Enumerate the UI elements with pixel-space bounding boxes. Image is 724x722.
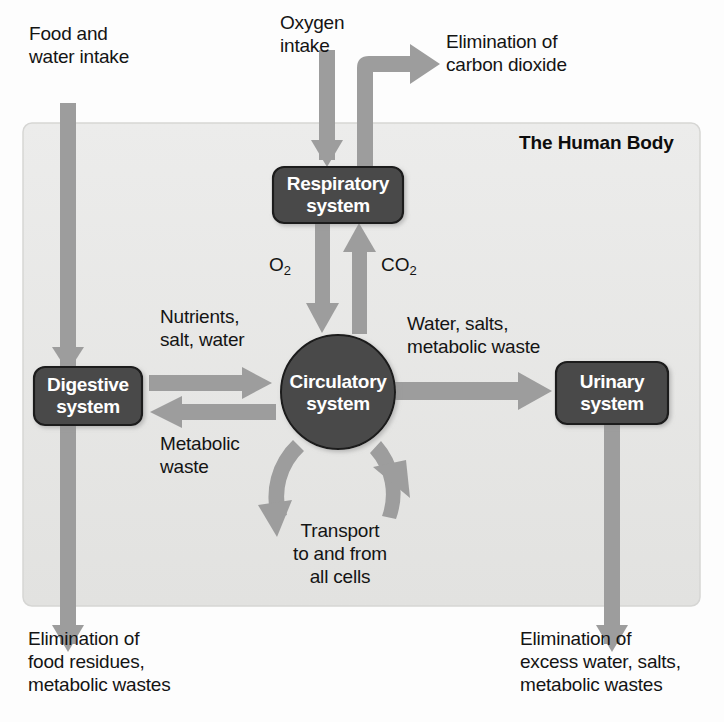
human-body-diagram: Respiratorysystem Circulatorysystem Dige…	[0, 0, 724, 722]
label-oxygen-intake: Oxygen intake	[280, 11, 344, 57]
label-food-residue-elimination: Elimination of food residues, metabolic …	[28, 627, 171, 696]
diagram-canvas	[0, 0, 724, 722]
label-water-salts-metabolic-waste: Water, salts, metabolic waste	[407, 312, 540, 358]
node-urinary-system[interactable]	[556, 362, 668, 424]
label-metabolic-waste: Metabolic waste	[160, 432, 240, 478]
label-transport-to-from-cells: Transport to and from all cells	[265, 519, 415, 588]
arrow-food-water-intake-shaft	[60, 103, 76, 367]
label-co2-subscript: 2	[410, 263, 417, 278]
label-co2-elimination: Elimination of carbon dioxide	[446, 30, 567, 76]
node-circulatory-system[interactable]	[281, 335, 395, 449]
arrow-nutrients-shaft	[149, 375, 246, 391]
label-excess-water-elimination: Elimination of excess water, salts, meta…	[520, 627, 681, 696]
arrow-urinary-elimination-shaft	[604, 423, 620, 644]
arrow-metabolic-waste-shaft	[176, 404, 276, 420]
label-o2-text: O	[269, 254, 284, 275]
arrow-co2-shaft	[352, 248, 367, 334]
label-nutrients-salt-water: Nutrients, salt, water	[160, 305, 244, 351]
arrow-water-salts-shaft	[394, 382, 524, 400]
arrow-food-residue-shaft	[60, 424, 76, 644]
node-digestive-system[interactable]	[34, 367, 142, 425]
label-co2: CO2	[381, 254, 417, 276]
label-o2: O2	[269, 254, 291, 276]
label-o2-subscript: 2	[284, 263, 291, 278]
label-co2-text: CO	[381, 254, 410, 275]
label-food-water-intake: Food and water intake	[29, 22, 129, 68]
human-body-title: The Human Body	[519, 132, 674, 154]
arrow-co2-elimination-head	[410, 44, 440, 84]
node-respiratory-system[interactable]	[273, 167, 403, 223]
arrow-o2-shaft	[315, 224, 330, 308]
